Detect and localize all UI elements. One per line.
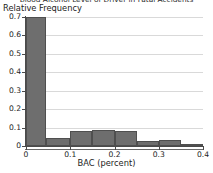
x-tick-label-4: 0.4 <box>197 150 209 159</box>
x-tick-label-0: 0 <box>24 150 29 159</box>
bar <box>115 131 137 146</box>
y-tick-mark-4 <box>22 72 26 73</box>
y-tick-label-1: 0.1 <box>0 124 21 132</box>
x-tick-label-1: 0.1 <box>64 150 76 159</box>
y-tick-label-0: 0 <box>0 142 21 150</box>
y-tick-mark-3 <box>22 91 26 92</box>
y-tick-label-5: 0.5 <box>0 50 21 58</box>
x-tick-label-3: 0.3 <box>153 150 165 159</box>
bar <box>92 130 114 146</box>
y-tick-mark-6 <box>22 35 26 36</box>
chart-container: Blood Alcohol Level of Driver in Fatal A… <box>0 0 213 173</box>
y-tick-label-7: 0.7 <box>0 13 21 21</box>
y-tick-mark-7 <box>22 17 26 18</box>
bar <box>46 138 70 146</box>
y-tick-label-3: 0.3 <box>0 87 21 95</box>
y-tick-label-2: 0.2 <box>0 105 21 113</box>
y-tick-label-4: 0.4 <box>0 68 21 76</box>
bar <box>70 131 92 146</box>
bar <box>26 17 46 146</box>
y-tick-mark-2 <box>22 109 26 110</box>
bar-series <box>26 17 203 146</box>
y-tick-mark-5 <box>22 54 26 55</box>
y-tick-label-6: 0.6 <box>0 31 21 39</box>
x-axis-label: BAC (percent) <box>0 159 213 168</box>
y-tick-mark-1 <box>22 128 26 129</box>
